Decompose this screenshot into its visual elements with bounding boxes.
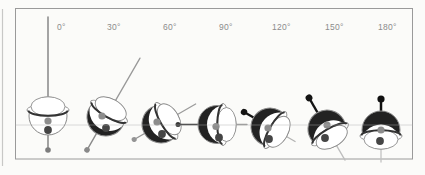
cap-dome	[31, 97, 65, 116]
rod-ball	[45, 147, 51, 153]
antenna-mast	[286, 136, 296, 142]
antenna-mast	[177, 104, 196, 115]
rod-ball	[377, 95, 384, 102]
rod-ball	[304, 93, 313, 102]
angle-label: 30°	[107, 22, 121, 32]
upper-port-dot	[212, 123, 219, 130]
buoy-rotation-diagram: 0°30°60°90°120°150°180°	[0, 0, 425, 175]
lower-port-dot	[44, 126, 52, 134]
lower-port-dot	[265, 135, 273, 143]
buoy-figure-30deg	[67, 48, 158, 163]
lower-port-dot	[215, 134, 223, 142]
angle-label: 150°	[325, 22, 344, 32]
antenna-mast	[336, 145, 345, 161]
angle-label: 0°	[57, 22, 66, 32]
buoy-rotation-figure: 0°30°60°90°120°150°180°	[0, 0, 425, 175]
rod-ball	[240, 108, 249, 117]
lower-port-dot	[321, 134, 329, 142]
buoy-figure-60deg	[121, 86, 206, 159]
upper-port-dot	[98, 112, 105, 119]
buoy-figure-0deg	[27, 17, 69, 153]
rod-ball	[176, 122, 181, 127]
upper-port-dot	[44, 117, 51, 124]
lower-port-dot	[158, 130, 166, 138]
antenna-mast	[115, 58, 140, 101]
rod-ball	[83, 146, 91, 154]
buoy-figure-180deg	[360, 95, 402, 164]
lower-port-dot	[376, 137, 384, 145]
angle-label: 90°	[219, 22, 233, 32]
angle-label: 120°	[272, 22, 291, 32]
rod-ball	[131, 136, 138, 143]
buoy-figure-150deg	[289, 84, 363, 170]
angle-label: 180°	[378, 22, 397, 32]
upper-port-dot	[264, 124, 271, 131]
upper-port-dot	[377, 126, 384, 133]
angle-label: 60°	[163, 22, 177, 32]
buoy-figure-120deg	[231, 92, 308, 160]
upper-port-dot	[153, 118, 160, 125]
